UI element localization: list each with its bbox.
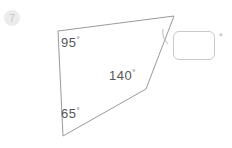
degree-symbol: ° <box>132 68 135 77</box>
angle-label-95: 95° <box>61 35 80 50</box>
answer-input[interactable] <box>173 31 215 60</box>
answer-degree-symbol: ° <box>219 32 223 42</box>
angle-label-140: 140° <box>109 68 135 83</box>
angle-label-65: 65° <box>61 106 80 121</box>
worksheet-canvas: 7 95° 140° 65° ° <box>0 0 232 148</box>
degree-symbol: ° <box>76 35 79 44</box>
angle-value-140: 140 <box>109 68 132 83</box>
degree-symbol: ° <box>76 106 79 115</box>
angle-value-65: 65 <box>61 106 76 121</box>
angle-value-95: 95 <box>61 35 76 50</box>
